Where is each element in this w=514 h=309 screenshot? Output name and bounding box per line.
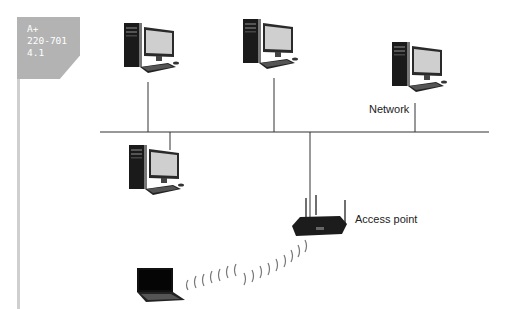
access-point-label: Access point (355, 213, 417, 225)
desktop-computer-icon (243, 19, 298, 69)
desktop-computer-icon (129, 145, 184, 195)
wireless-signal-icon (187, 240, 307, 290)
network-label: Network (369, 103, 409, 115)
desktop-computer-icon (124, 23, 179, 73)
access-point-icon (292, 195, 347, 236)
desktop-computer-icon (392, 42, 447, 92)
network-diagram (0, 0, 514, 309)
laptop-icon (137, 268, 185, 302)
